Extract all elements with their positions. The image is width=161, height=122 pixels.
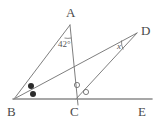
angle-mark-B-upper-dot <box>28 83 34 89</box>
angle-mark-B-lower-dot <box>30 91 36 97</box>
angle-value-labels: 42° x <box>58 39 121 51</box>
vertex-label-B: B <box>7 104 16 119</box>
vertex-label-D: D <box>141 23 150 38</box>
angle-mark-C-upper-circle <box>74 82 79 87</box>
vertex-label-E: E <box>138 104 146 119</box>
angle-arc-at-D <box>121 41 123 50</box>
vertex-labels: A B C D E <box>7 5 150 119</box>
angle-mark-C-lower-circle <box>83 89 88 94</box>
geometry-figure-canvas: A B C D E 42° x <box>0 0 161 122</box>
angle-label-at-A: 42° <box>58 39 71 49</box>
vertex-label-C: C <box>70 104 79 119</box>
vertex-label-A: A <box>66 5 76 20</box>
angle-label-at-D: x <box>116 41 121 51</box>
angle-arcs <box>65 38 124 50</box>
geometry-figure-container: A B C D E 42° x <box>0 0 161 122</box>
segment-BA <box>14 25 70 99</box>
